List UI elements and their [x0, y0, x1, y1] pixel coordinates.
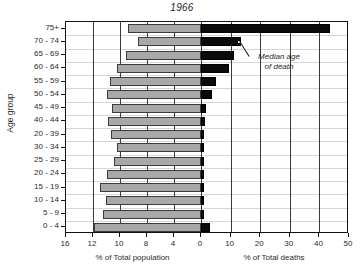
- y-axis-tick: [61, 173, 65, 174]
- grid-line-vertical: [93, 22, 94, 232]
- population-bar: [107, 170, 201, 179]
- y-axis-tick: [61, 200, 65, 201]
- x-axis-tick: [200, 233, 201, 237]
- median-age-annotation: Median age of death: [248, 52, 310, 72]
- x-axis-label-left: 8: [134, 239, 158, 248]
- deaths-bar: [201, 90, 212, 99]
- population-bar: [138, 37, 201, 46]
- left-axis-title: % of Total population: [65, 253, 200, 262]
- deaths-bar: [201, 196, 204, 205]
- grid-line-horizontal: [66, 208, 347, 209]
- x-axis-label-left: 0: [188, 239, 212, 248]
- grid-line-horizontal: [66, 49, 347, 50]
- y-axis-label: 0 - 4: [13, 221, 59, 230]
- x-axis-tick: [230, 233, 231, 237]
- deaths-bar: [201, 143, 204, 152]
- population-bar: [114, 157, 201, 166]
- y-axis-tick: [61, 160, 65, 161]
- x-axis-tick: [146, 233, 147, 237]
- deaths-bar: [201, 223, 210, 232]
- x-axis-label-right: 40: [306, 239, 330, 248]
- grid-line-horizontal: [66, 168, 347, 169]
- chart-title: 1966: [0, 2, 364, 13]
- grid-line-horizontal: [66, 102, 347, 103]
- population-bar: [106, 196, 201, 205]
- population-bar: [107, 90, 201, 99]
- y-axis-label: 70 - 74: [13, 36, 59, 45]
- deaths-bar: [201, 64, 229, 73]
- y-axis-tick: [61, 213, 65, 214]
- deaths-bar: [201, 157, 204, 166]
- deaths-bar: [201, 117, 205, 126]
- population-bar: [108, 117, 201, 126]
- x-axis-label-right: 50: [336, 239, 360, 248]
- y-axis-label: 20 - 24: [13, 168, 59, 177]
- grid-line-horizontal: [66, 75, 347, 76]
- x-axis-tick: [92, 233, 93, 237]
- grid-line-horizontal: [66, 35, 347, 36]
- x-axis-tick: [65, 233, 66, 237]
- y-axis-tick: [61, 81, 65, 82]
- y-axis-label: 15 - 19: [13, 182, 59, 191]
- x-axis-tick: [173, 233, 174, 237]
- x-axis-tick: [259, 233, 260, 237]
- population-bar: [103, 210, 201, 219]
- y-axis-label: 55 - 59: [13, 76, 59, 85]
- deaths-bar: [201, 170, 204, 179]
- y-axis-label: 65 - 69: [13, 49, 59, 58]
- grid-line-horizontal: [66, 128, 347, 129]
- x-axis-label-left: 16: [53, 239, 77, 248]
- y-axis-label: 10 - 14: [13, 195, 59, 204]
- x-axis-tick: [119, 233, 120, 237]
- x-axis-label-right: 10: [218, 239, 242, 248]
- chart-figure: 1966 Age group 75+70 - 7465 - 6960 - 645…: [0, 0, 364, 277]
- population-bar: [117, 64, 201, 73]
- y-axis-tick: [61, 54, 65, 55]
- y-axis-tick: [61, 107, 65, 108]
- x-axis-tick: [318, 233, 319, 237]
- deaths-bar: [201, 51, 234, 60]
- grid-line-horizontal: [66, 88, 347, 89]
- grid-line-horizontal: [66, 141, 347, 142]
- grid-line-horizontal: [66, 221, 347, 222]
- y-axis-label: 5 - 9: [13, 208, 59, 217]
- y-axis-tick: [61, 41, 65, 42]
- population-bar: [112, 104, 201, 113]
- grid-line-horizontal: [66, 155, 347, 156]
- y-axis-label: 75+: [13, 23, 59, 32]
- population-bar: [110, 77, 201, 86]
- y-axis-tick: [61, 120, 65, 121]
- grid-line-horizontal: [66, 194, 347, 195]
- y-axis-label: 50 - 54: [13, 89, 59, 98]
- y-axis-tick: [61, 226, 65, 227]
- x-axis-label-left: 4: [161, 239, 185, 248]
- y-axis-tick: [61, 94, 65, 95]
- right-axis-title: % of Total deaths: [200, 253, 348, 262]
- grid-line-horizontal: [66, 115, 347, 116]
- population-bar: [111, 130, 201, 139]
- x-axis-tick: [348, 233, 349, 237]
- population-bar: [128, 24, 201, 33]
- population-bar: [126, 51, 201, 60]
- population-bar: [94, 223, 201, 232]
- y-axis-tick: [61, 147, 65, 148]
- x-axis-tick: [289, 233, 290, 237]
- population-bar: [117, 143, 201, 152]
- deaths-bar: [201, 77, 216, 86]
- y-axis-label: 20 - 39: [13, 129, 59, 138]
- y-axis-tick: [61, 187, 65, 188]
- x-axis-label-right: 20: [247, 239, 271, 248]
- deaths-bar: [201, 104, 206, 113]
- grid-line-vertical: [319, 22, 320, 232]
- y-axis-tick: [61, 67, 65, 68]
- y-axis-label: 30 - 34: [13, 142, 59, 151]
- x-axis-label-right: 30: [277, 239, 301, 248]
- y-axis-label: 45 - 49: [13, 102, 59, 111]
- y-axis-label: 60 - 64: [13, 62, 59, 71]
- y-axis-label: 40 - 44: [13, 115, 59, 124]
- deaths-bar: [201, 130, 204, 139]
- population-bar: [100, 183, 201, 192]
- y-axis-tick: [61, 28, 65, 29]
- deaths-bar: [201, 210, 204, 219]
- grid-line-horizontal: [66, 181, 347, 182]
